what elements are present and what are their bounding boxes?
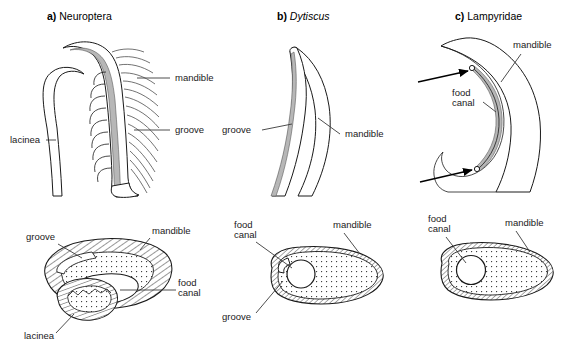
label-groove-xs-a: groove xyxy=(26,231,55,242)
food-canal-c-xs xyxy=(457,256,486,285)
panel-b-title: b) Dytiscus xyxy=(277,10,330,22)
label-mandible-xs-b: mandible xyxy=(333,219,372,230)
label-mandible-c: mandible xyxy=(513,39,552,50)
label-canal-xs-c: canal xyxy=(428,223,451,234)
label-mandible-xs-a: mandible xyxy=(152,225,191,236)
label-canal-xs-b: canal xyxy=(234,229,257,240)
food-canal-opening-upper xyxy=(469,65,474,70)
panel-c-title: c) Lampyridae xyxy=(455,10,522,22)
label-groove-a: groove xyxy=(175,124,204,135)
food-canal-opening-lower xyxy=(474,166,479,171)
label-mandible-b: mandible xyxy=(345,128,384,139)
label-mandible-a: mandible xyxy=(175,72,214,83)
label-groove-xs-b: groove xyxy=(222,311,251,322)
mandible-comparison-figure: a) Neuroptera b) Dytiscus c) Lampyridae xyxy=(0,0,573,351)
label-canal-c: canal xyxy=(452,97,475,108)
lacinea-core-a xyxy=(68,286,111,312)
panel-a-title: a) Neuroptera xyxy=(47,10,112,22)
label-mandible-xs-c: mandible xyxy=(505,217,544,228)
label-lacinea-a: lacinea xyxy=(10,134,41,145)
label-canal-xs-a: canal xyxy=(178,287,201,298)
label-lacinea-xs-a: lacinea xyxy=(24,330,55,341)
food-canal-b xyxy=(287,260,315,288)
label-groove-b: groove xyxy=(222,124,251,135)
